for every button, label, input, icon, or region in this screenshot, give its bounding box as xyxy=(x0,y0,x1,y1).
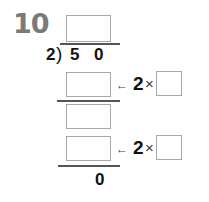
remainder-box[interactable] xyxy=(66,104,111,129)
first-product-box[interactable] xyxy=(66,72,111,97)
final-remainder: 0 xyxy=(95,171,104,189)
second-factor-box[interactable] xyxy=(156,135,182,160)
quotient-answer-box[interactable] xyxy=(66,15,111,42)
left-arrow-icon: ← xyxy=(116,79,128,91)
first-factor-box[interactable] xyxy=(156,71,182,96)
division-bracket: ) xyxy=(56,44,62,64)
multiplier-label: 2 xyxy=(133,138,144,158)
dividend-digit-tens: 5 xyxy=(70,46,79,64)
left-arrow-icon: ← xyxy=(116,143,128,155)
dividend-digit-ones: 0 xyxy=(94,46,103,64)
second-product-box[interactable] xyxy=(66,136,111,161)
multiplier-label: 2 xyxy=(133,74,144,94)
times-sign: × xyxy=(145,140,154,156)
subtraction-line-1 xyxy=(57,100,120,102)
divisor: 2 xyxy=(46,46,55,64)
division-bar xyxy=(60,43,120,45)
problem-number: 10 xyxy=(13,10,49,38)
times-sign: × xyxy=(145,76,154,92)
subtraction-line-2 xyxy=(58,165,120,167)
